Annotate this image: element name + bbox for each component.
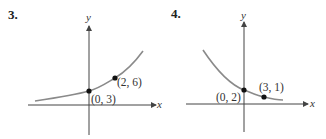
panel-4-point-1-label: (0, 2) <box>216 91 241 104</box>
panel-4-point-1 <box>241 87 246 92</box>
panel-3-x-axis-label: x <box>156 98 162 110</box>
panel-3-number: 3. <box>8 7 18 22</box>
panel-3-growth-graph: 3. y x (0, 3) (2, 6) <box>8 7 162 135</box>
panel-4-number: 4. <box>171 6 181 21</box>
panel-3-y-axis-label: y <box>85 11 91 23</box>
panel-4-point-2 <box>261 94 266 99</box>
panel-4-x-axis-label: x <box>309 97 315 109</box>
panel-3-point-2-label: (2, 6) <box>117 76 142 89</box>
figure-canvas: 3. y x (0, 3) (2, 6) 4. y x (0, 2) (3, 1… <box>0 0 326 139</box>
panel-4-y-axis-label: y <box>240 9 246 21</box>
panel-3-point-1-label: (0, 3) <box>91 93 116 106</box>
panel-4-decay-graph: 4. y x (0, 2) (3, 1) <box>171 6 315 132</box>
panel-4-point-2-label: (3, 1) <box>259 81 284 94</box>
